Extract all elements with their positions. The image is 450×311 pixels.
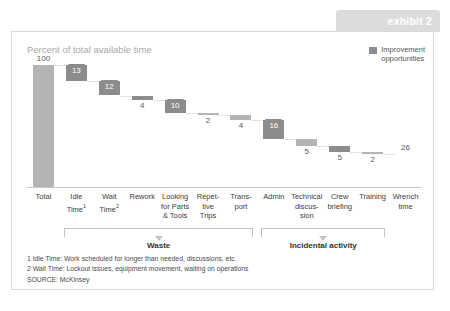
value-label-wait-time: 12	[101, 80, 118, 93]
bar-technical-discussion	[296, 139, 317, 145]
connector-line	[383, 154, 395, 155]
connector-line	[186, 113, 198, 114]
footnotes-block: 1 Idle Time: Work scheduled for longer t…	[27, 254, 249, 285]
chart-frame: Percent of total available time Improvem…	[11, 31, 434, 290]
connector-line	[251, 120, 263, 121]
bar-rework	[132, 96, 153, 101]
value-label-transport: 4	[234, 121, 248, 130]
value-label-looking-for-parts-tools: 10	[167, 99, 184, 112]
value-label-repetitive-trips: 2	[201, 116, 215, 125]
connector-line	[153, 100, 165, 101]
value-label-technical-discussion: 5	[300, 147, 314, 156]
connector-line	[87, 81, 99, 82]
bracket-label-incidental-activity: Incidental activity	[263, 241, 383, 250]
legend-swatch-improvement-opportunities	[369, 47, 377, 54]
source-line: SOURCE: McKinsey	[27, 275, 249, 285]
waterfall-plot: 1001312410241655226	[27, 65, 422, 187]
bar-training	[362, 152, 383, 155]
axis-baseline	[27, 187, 422, 188]
value-label-wrench-time: 26	[399, 143, 413, 152]
value-label-idle-time: 13	[68, 64, 85, 77]
value-label-training: 2	[366, 155, 380, 164]
connector-line	[350, 152, 362, 153]
bracket-label-waste: Waste	[99, 241, 219, 250]
exhibit-tab: exhibit 2	[336, 10, 440, 32]
group-brackets: WasteIncidental activity	[27, 228, 422, 254]
value-label-crew-briefing: 5	[333, 153, 347, 162]
bar-transport	[230, 115, 251, 120]
chart-legend: Improvement opportunities	[369, 45, 425, 63]
value-label-rework: 4	[135, 101, 149, 110]
connector-line	[120, 96, 132, 97]
connector-line	[219, 115, 231, 116]
category-label-wrench-time: Wrenchtime	[384, 192, 427, 211]
bar-total	[33, 65, 54, 187]
footnote-1: 1 Idle Time: Work scheduled for longer t…	[27, 254, 249, 264]
connector-line	[284, 139, 296, 140]
connector-line	[317, 146, 329, 147]
value-label-admin: 16	[265, 119, 282, 132]
bar-crew-briefing	[329, 146, 350, 152]
connector-line	[54, 65, 66, 66]
bar-repetitive-trips	[198, 113, 219, 116]
exhibit-tab-label: exhibit 2	[388, 15, 432, 27]
value-label-total: 100	[36, 54, 50, 63]
footnote-2: 2 Wait Time: Lockout issues, equipment m…	[27, 264, 249, 274]
legend-label-improvement-opportunities: Improvement opportunities	[381, 45, 425, 63]
